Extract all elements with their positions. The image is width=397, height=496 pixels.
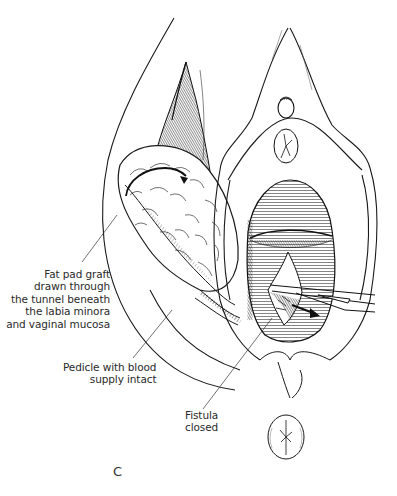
fistula-closed-label: Fistula closed <box>185 409 218 434</box>
label-line: and vaginal mucosa <box>6 318 110 330</box>
pedicle-label: Pedicle with blood supply intact <box>63 361 156 386</box>
label-line: Pedicle with blood <box>63 361 156 373</box>
label-line: closed <box>185 421 218 433</box>
label-line: the labia minora <box>6 305 110 317</box>
clitoris <box>278 98 294 118</box>
anus <box>268 415 304 459</box>
label-line: supply intact <box>63 373 156 385</box>
fat-pad-graft-label: Fat pad graft drawn through the tunnel b… <box>6 268 110 330</box>
panel-letter: C <box>113 464 122 479</box>
label-line: Fat pad graft <box>6 268 110 280</box>
label-line: drawn through <box>6 280 110 292</box>
perineum <box>260 352 330 398</box>
pedicle <box>195 290 240 325</box>
label-line: the tunnel beneath <box>6 293 110 305</box>
label-line: Fistula <box>185 409 218 421</box>
